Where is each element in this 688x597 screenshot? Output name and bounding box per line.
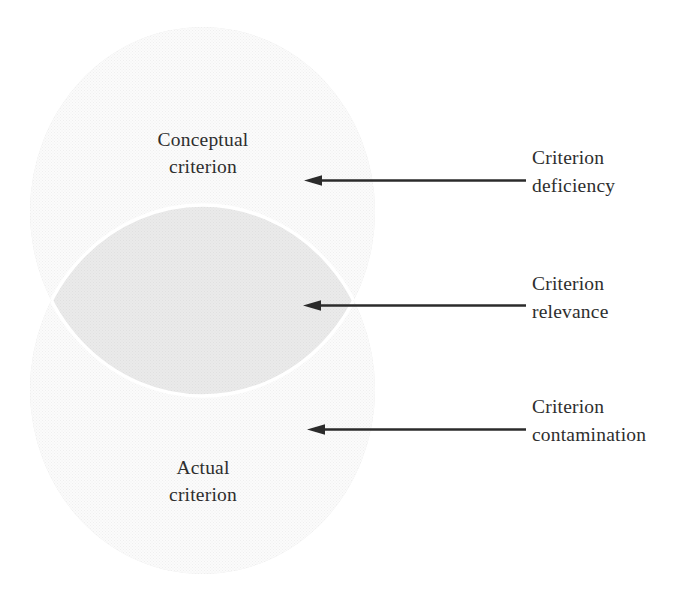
venn-diagram: Conceptual criterion Actual criterion Cr… bbox=[0, 0, 688, 597]
arrow-deficiency bbox=[304, 175, 526, 186]
set-label-conceptual: Conceptual criterion bbox=[118, 127, 288, 181]
arrow-relevance bbox=[303, 300, 526, 311]
set-label-actual: Actual criterion bbox=[118, 455, 288, 509]
callout-label-criterion-contamination: Criterion contamination bbox=[532, 393, 646, 448]
callout-label-criterion-relevance: Criterion relevance bbox=[532, 270, 609, 325]
callout-label-criterion-deficiency: Criterion deficiency bbox=[532, 144, 615, 199]
arrow-contamination bbox=[307, 424, 526, 435]
